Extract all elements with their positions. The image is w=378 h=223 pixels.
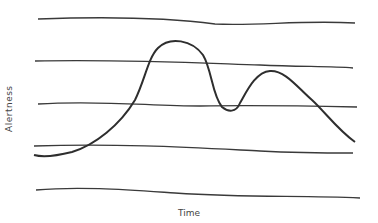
x-axis-label: Time [178,208,200,218]
gridline [38,103,357,107]
chart-canvas [0,0,378,223]
gridline [36,188,360,198]
gridline [38,18,355,25]
gridline [35,60,353,68]
y-axis-label: Alertness [4,85,14,132]
gridlines [34,18,360,198]
alertness-curve [34,41,355,156]
